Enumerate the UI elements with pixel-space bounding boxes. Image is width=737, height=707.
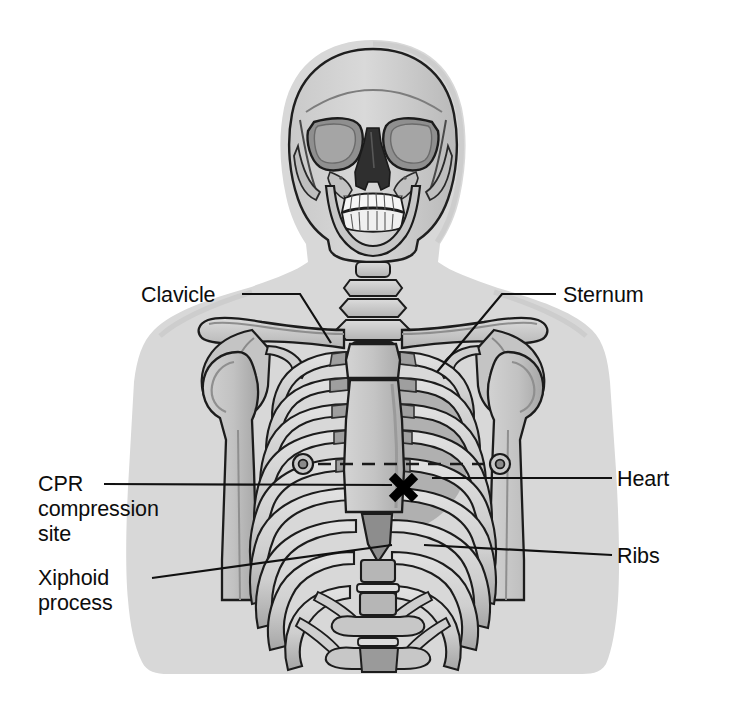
label-cpr-line-2: compression bbox=[38, 497, 159, 521]
label-xiphoid-line-2: process bbox=[38, 591, 113, 615]
teeth bbox=[342, 193, 404, 232]
label-heart: Heart bbox=[617, 467, 669, 492]
diagram-canvas: Clavicle Sternum CPR compression site Xi… bbox=[0, 0, 737, 707]
label-clavicle: Clavicle bbox=[141, 283, 215, 308]
sternum bbox=[344, 344, 404, 512]
label-xiphoid-process: Xiphoid process bbox=[38, 566, 113, 616]
label-sternum: Sternum bbox=[563, 283, 644, 308]
label-cpr-line-1: CPR bbox=[38, 472, 83, 496]
label-cpr-compression-site: CPR compression site bbox=[38, 472, 159, 547]
nipple-marker-right bbox=[490, 454, 510, 474]
label-ribs: Ribs bbox=[617, 544, 660, 569]
label-xiphoid-line-1: Xiphoid bbox=[38, 566, 109, 590]
label-cpr-line-3: site bbox=[38, 522, 71, 546]
nipple-marker-left bbox=[293, 454, 313, 474]
